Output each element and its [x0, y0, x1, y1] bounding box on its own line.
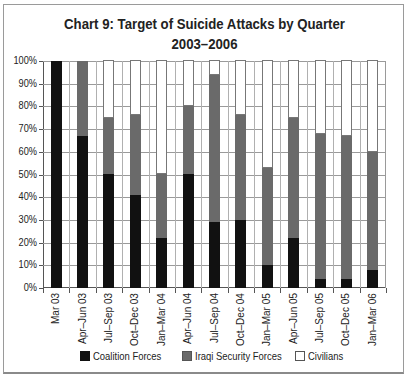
- bar-segment-civilians: [288, 60, 299, 118]
- bar-stack: [209, 61, 220, 288]
- bar-segment-civilians: [183, 60, 194, 106]
- legend-swatch: [295, 351, 305, 361]
- bar-segment-coalition-forces: [183, 174, 194, 288]
- bar-segment-iraqi-security-forces: [288, 118, 299, 238]
- bar-segment-iraqi-security-forces: [209, 75, 220, 222]
- vertical-gridline: [333, 61, 334, 288]
- bar-segment-iraqi-security-forces: [262, 168, 273, 265]
- bar-segment-civilians: [341, 60, 352, 136]
- y-tick-mark: [39, 175, 43, 176]
- x-tick-label: Oct–Dec 05: [340, 293, 351, 346]
- vertical-gridline: [254, 61, 255, 288]
- vertical-gridline: [228, 61, 229, 288]
- bar-segment-coalition-forces: [103, 174, 114, 288]
- bar-stack: [77, 61, 88, 288]
- bar-segment-coalition-forces: [288, 238, 299, 288]
- bar-stack: [341, 61, 352, 288]
- chart-subtitle: 2003–2006: [25, 34, 385, 54]
- y-tick-mark: [39, 265, 43, 266]
- y-tick-label: 40%: [3, 191, 37, 203]
- x-tick-mark: [228, 288, 229, 293]
- bar-segment-civilians: [367, 60, 378, 152]
- bar-segment-iraqi-security-forces: [103, 118, 114, 174]
- y-tick-label: 0%: [3, 282, 37, 294]
- legend-swatch: [182, 351, 192, 361]
- y-tick-label: 60%: [3, 146, 37, 158]
- bar-segment-civilians: [156, 60, 167, 174]
- bar-segment-coalition-forces: [315, 279, 326, 288]
- legend-item-iraqi-security-forces: Iraqi Security Forces: [182, 350, 291, 362]
- bar-segment-coalition-forces: [262, 265, 273, 288]
- bar-segment-iraqi-security-forces: [130, 115, 141, 195]
- legend-item-civilians: Civilians: [295, 350, 347, 362]
- x-tick-label: Oct–Dec 04: [235, 293, 246, 346]
- bar-segment-coalition-forces: [341, 279, 352, 288]
- x-tick-mark: [175, 288, 176, 293]
- vertical-gridline: [149, 61, 150, 288]
- bar-stack: [367, 61, 378, 288]
- y-tick-label: 50%: [3, 169, 37, 181]
- bar-stack: [183, 61, 194, 288]
- bar-segment-iraqi-security-forces: [156, 174, 167, 238]
- x-tick-mark: [201, 288, 202, 293]
- y-tick-mark: [39, 84, 43, 85]
- x-tick-label: Apr–Jun 04: [182, 293, 193, 344]
- y-tick-label: 20%: [3, 237, 37, 249]
- x-tick-mark: [333, 288, 334, 293]
- legend: Coalition ForcesIraqi Security ForcesCiv…: [0, 350, 409, 364]
- x-tick-label: Mar 03: [50, 293, 61, 324]
- x-tick-label: Jul–Sep 03: [103, 293, 114, 343]
- x-tick-mark: [43, 288, 44, 293]
- bar-stack: [262, 61, 273, 288]
- vertical-gridline: [360, 61, 361, 288]
- y-tick-mark: [39, 61, 43, 62]
- x-tick-label: Apr–Jun 03: [77, 293, 88, 344]
- y-tick-mark: [39, 220, 43, 221]
- bar-stack: [130, 61, 141, 288]
- bar-stack: [235, 61, 246, 288]
- bar-segment-coalition-forces: [51, 61, 62, 288]
- x-tick-mark: [96, 288, 97, 293]
- bar-segment-iraqi-security-forces: [315, 134, 326, 279]
- legend-label: Coalition Forces: [93, 350, 161, 362]
- bar-segment-civilians: [235, 60, 246, 115]
- y-tick-label: 10%: [3, 259, 37, 271]
- y-tick-mark: [39, 129, 43, 130]
- x-tick-label: Jul–Sep 04: [209, 293, 220, 343]
- bar-stack: [315, 61, 326, 288]
- bar-segment-civilians: [130, 60, 141, 115]
- y-tick-label: 80%: [3, 100, 37, 112]
- bar-segment-civilians: [315, 60, 326, 134]
- vertical-gridline: [175, 61, 176, 288]
- legend-label: Iraqi Security Forces: [195, 350, 282, 362]
- x-tick-label: Jan–Mar 05: [261, 293, 272, 346]
- bar-segment-iraqi-security-forces: [77, 61, 88, 136]
- bar-stack: [51, 61, 62, 288]
- bar-segment-civilians: [262, 60, 273, 168]
- x-tick-mark: [254, 288, 255, 293]
- bar-segment-coalition-forces: [235, 220, 246, 288]
- x-tick-mark: [386, 288, 387, 293]
- vertical-gridline: [307, 61, 308, 288]
- y-tick-label: 30%: [3, 214, 37, 226]
- bar-stack: [288, 61, 299, 288]
- x-tick-mark: [69, 288, 70, 293]
- bar-segment-coalition-forces: [367, 270, 378, 288]
- bar-segment-civilians: [209, 60, 220, 75]
- x-tick-mark: [307, 288, 308, 293]
- bar-segment-civilians: [103, 60, 114, 118]
- x-tick-mark: [360, 288, 361, 293]
- bar-segment-coalition-forces: [209, 222, 220, 288]
- y-tick-label: 90%: [3, 78, 37, 90]
- x-tick-label: Apr–Jun 05: [288, 293, 299, 344]
- x-tick-label: Jul–Sep 05: [314, 293, 325, 343]
- y-tick-label: 100%: [3, 55, 37, 67]
- vertical-gridline: [280, 61, 281, 288]
- legend-swatch: [80, 351, 90, 361]
- vertical-gridline: [122, 61, 123, 288]
- bar-segment-coalition-forces: [156, 238, 167, 288]
- x-tick-label: Oct–Dec 03: [129, 293, 140, 346]
- bar-stack: [156, 61, 167, 288]
- y-tick-mark: [39, 197, 43, 198]
- legend-label: Civilians: [308, 350, 343, 362]
